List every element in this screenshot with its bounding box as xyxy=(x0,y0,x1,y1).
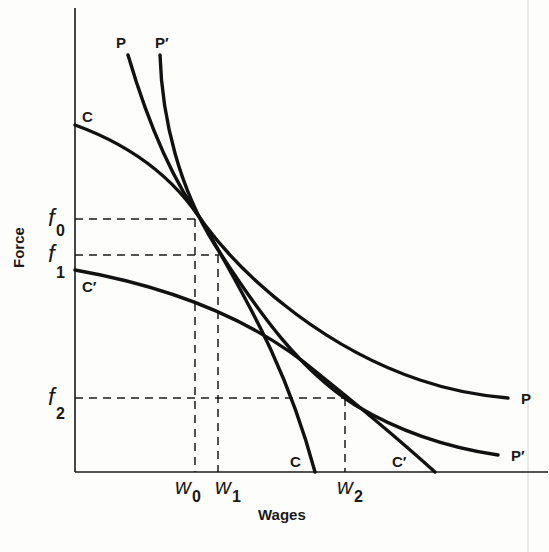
label-C-top: C xyxy=(82,108,93,125)
curve-P xyxy=(128,55,508,398)
svg-text:2: 2 xyxy=(56,405,65,422)
label-P-right: P xyxy=(521,390,531,407)
curves xyxy=(75,55,508,472)
label-C-bottom: C xyxy=(290,453,301,470)
y-tick-f0: f 0 xyxy=(48,204,65,239)
svg-text:0: 0 xyxy=(56,222,65,239)
wage-force-diagram: P P′ C C′ P P′ C C′ f 0 f 1 f 2 w 0 w 1 … xyxy=(0,0,549,552)
svg-text:1: 1 xyxy=(56,264,65,281)
y-tick-f1: f 1 xyxy=(48,240,65,281)
x-tick-w1: w 1 xyxy=(215,474,241,505)
curve-P-prime xyxy=(160,55,498,455)
svg-text:w: w xyxy=(215,474,233,499)
label-C-prime-bottom: C′ xyxy=(392,453,407,470)
label-P-prime-top: P′ xyxy=(155,34,169,51)
svg-text:w: w xyxy=(337,474,355,499)
label-C-prime-left: C′ xyxy=(82,278,97,295)
svg-text:2: 2 xyxy=(354,488,363,505)
curve-C-prime xyxy=(75,270,435,472)
svg-text:f: f xyxy=(48,240,57,267)
svg-text:1: 1 xyxy=(232,488,241,505)
x-axis-title: Wages xyxy=(258,506,306,523)
y-axis-title: Force xyxy=(10,227,27,268)
y-tick-f2: f 2 xyxy=(48,383,65,422)
x-tick-w0: w 0 xyxy=(175,474,201,505)
x-tick-w2: w 2 xyxy=(337,474,363,505)
label-P-top: P xyxy=(116,34,126,51)
svg-text:0: 0 xyxy=(192,488,201,505)
svg-text:w: w xyxy=(175,474,193,499)
label-P-prime-right: P′ xyxy=(511,447,525,464)
